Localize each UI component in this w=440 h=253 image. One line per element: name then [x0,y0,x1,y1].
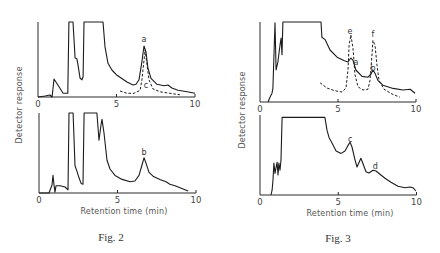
x-tick-label: 5 [114,99,119,109]
x-tick-label: 0 [257,197,262,207]
dashed-standard-trace [120,50,180,95]
axes [260,22,416,102]
peak-label-a: a [142,35,147,44]
chromatogram-panel-top: 0510ac [35,22,200,109]
x-tick-label: 10 [190,99,201,109]
sample-trace [271,117,416,195]
peak-label-f: f [372,30,375,39]
figure-caption: Fig. 2 [98,231,124,243]
peak-label-e: e [348,27,353,36]
x-tick-label: 5 [336,197,341,207]
figure-caption: Fig. 3 [325,232,351,244]
dashed-standard-trace [320,35,400,97]
peak-label-b: b [141,148,146,157]
x-tick-label: 10 [411,197,422,207]
sample-trace [38,22,195,97]
figures-canvas: Detector response 0510ac 0510b Retention… [0,0,440,253]
figure-2: Detector response 0510ac 0510b Retention… [15,22,201,243]
x-tick-label: 10 [411,104,422,114]
axes [38,22,195,97]
y-axis-title: Detector response [238,71,247,148]
figure-page: Detector response 0510ac 0510b Retention… [0,0,440,253]
peak-label-c: c [348,135,352,144]
x-tick-label: 10 [191,195,202,205]
chromatogram-panel-bottom: 0510cd [257,115,422,207]
x-tick-label: 0 [257,104,262,114]
axes [39,113,196,193]
x-tick-label: 0 [35,99,40,109]
x-tick-label: 5 [335,104,340,114]
peak-label-a: a [353,58,358,67]
x-axis-title: Retention time (min) [80,207,167,216]
y-axis-title: Detector response [15,66,24,143]
x-tick-label: 5 [115,195,120,205]
peak-label-c: c [144,81,148,90]
chromatogram-panel-top: 0510efab [257,22,421,114]
figure-3: Detector response 0510efab 0510cd Retent… [238,22,422,244]
peak-label-d: d [373,162,378,171]
chromatogram-panel-bottom: 0510b [36,113,201,205]
x-tick-label: 0 [36,195,41,205]
peak-label-b: b [370,64,375,73]
x-axis-title: Retention time (min) [306,209,393,218]
sample-trace [268,22,415,102]
sample-trace [39,113,188,193]
